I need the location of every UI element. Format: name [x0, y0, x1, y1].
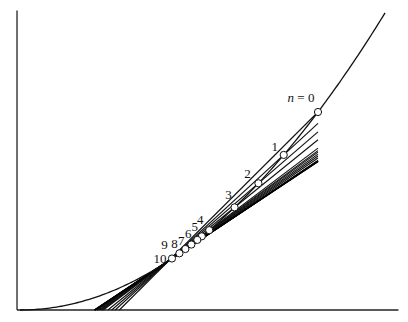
secant-line-n1	[115, 123, 318, 310]
point-marker-n2	[255, 180, 262, 187]
secant-line-n3	[108, 140, 318, 310]
point-marker-n0	[314, 108, 321, 115]
secant-lines	[95, 112, 319, 310]
point-label-n0: n = 0	[288, 90, 315, 105]
point-marker-n10	[168, 255, 175, 262]
point-label-n1: 1	[271, 139, 278, 154]
secant-convergence-chart: n = 012345678910	[0, 0, 408, 322]
curve-layer	[20, 13, 385, 310]
point-marker-n1	[280, 151, 287, 158]
point-marker-n4	[206, 227, 213, 234]
point-marker-n3	[231, 204, 238, 211]
limit-secant-line-4	[95, 162, 319, 311]
axes	[17, 11, 398, 310]
point-label-n5: 5	[192, 219, 199, 234]
point-label-n8: 8	[171, 236, 178, 251]
secant-line-n2	[112, 132, 318, 310]
parabola-curve	[20, 13, 385, 310]
point-label-n10: 10	[153, 251, 166, 266]
secant-line-n0	[119, 112, 318, 310]
point-label-n7: 7	[178, 233, 185, 248]
point-label-n6: 6	[185, 226, 192, 241]
point-label-n2: 2	[244, 166, 251, 181]
point-label-n3: 3	[225, 187, 232, 202]
